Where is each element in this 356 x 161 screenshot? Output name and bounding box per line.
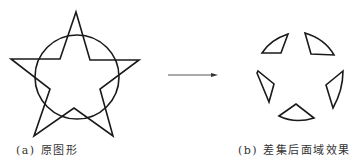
figure-canvas [0,0,356,161]
original-figure [11,12,139,136]
arrow [168,73,218,77]
caption-subtracted: (b) 差集后面域效果 [238,141,351,157]
region-top-right [305,33,334,55]
star-shape [11,12,139,136]
region-left [257,71,274,102]
region-right [326,71,343,108]
arrowhead-icon [211,73,218,77]
caption-original: (a) 原图形 [16,141,78,157]
circle-shape [35,35,119,119]
region-bottom [279,104,314,121]
subtracted-regions [257,33,343,121]
region-top-left [262,34,288,53]
